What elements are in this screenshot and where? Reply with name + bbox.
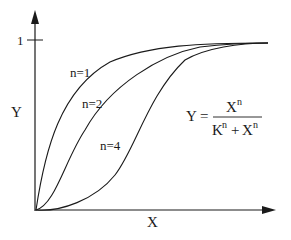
- hill-equation: Y = X n K n + X n: [186, 96, 262, 138]
- curve-label-n4: n=4: [100, 138, 121, 153]
- equation-denominator-base2: X: [242, 122, 253, 138]
- equation-lhs: Y =: [186, 108, 209, 124]
- curve-label-n1: n=1: [70, 65, 90, 80]
- equation-denominator-exp1: n: [222, 119, 227, 130]
- y-axis-label: Y: [11, 104, 22, 120]
- y-axis-arrow-icon: [31, 10, 39, 24]
- equation-numerator-base: X: [226, 99, 237, 115]
- equation-denominator-exp2: n: [253, 119, 258, 130]
- equation-denominator-plus: +: [231, 122, 239, 138]
- x-axis-arrow-icon: [262, 206, 276, 214]
- hill-equation-diagram: 1 Y X n=1 n=2 n=4 Y = X n K n + X n: [0, 0, 291, 240]
- x-axis-label: X: [147, 214, 158, 230]
- equation-numerator-exp: n: [237, 96, 242, 107]
- curve-label-n2: n=2: [82, 96, 102, 111]
- y-tick-label: 1: [17, 33, 24, 48]
